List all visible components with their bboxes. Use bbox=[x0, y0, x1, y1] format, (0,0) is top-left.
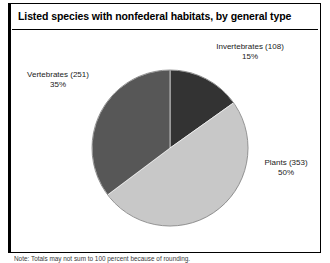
pie-label-invertebrates-pct: 15% bbox=[208, 52, 292, 62]
pie-label-plants-pct: 50% bbox=[252, 168, 320, 178]
pie-label-plants-name: Plants (353) bbox=[252, 158, 320, 168]
title-divider bbox=[12, 29, 318, 30]
pie-label-vertebrates-name: Vertebrates (251) bbox=[16, 70, 100, 80]
pie-svg bbox=[11, 31, 320, 252]
pie-label-invertebrates-name: Invertebrates (108) bbox=[208, 42, 292, 52]
frame-bottom-rule bbox=[8, 252, 321, 253]
frame-top-rule bbox=[8, 3, 321, 4]
pie-label-invertebrates: Invertebrates (108) 15% bbox=[208, 42, 292, 62]
pie-label-vertebrates-pct: 35% bbox=[16, 80, 100, 90]
figure-panel: Listed species with nonfederal habitats,… bbox=[0, 0, 330, 263]
pie-label-plants: Plants (353) 50% bbox=[252, 158, 320, 178]
frame-right-rule bbox=[320, 3, 321, 253]
figure-title: Listed species with nonfederal habitats,… bbox=[18, 10, 312, 23]
pie-label-vertebrates: Vertebrates (251) 35% bbox=[16, 70, 100, 90]
pie-chart bbox=[11, 31, 320, 252]
figure-note: Note: Totals may not sum to 100 percent … bbox=[14, 255, 314, 263]
